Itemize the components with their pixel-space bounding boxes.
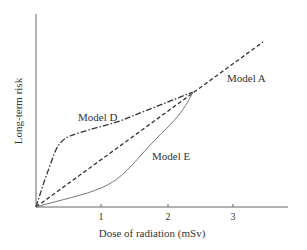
chart: 1 2 3 Dose of radiation (mSv) Long-term … (0, 0, 307, 250)
x-tick-label-2: 2 (166, 211, 171, 222)
x-tick-label-3: 3 (231, 211, 236, 222)
x-tick-label-1: 1 (99, 211, 104, 222)
y-axis-label: Long-term risk (12, 77, 24, 144)
series-model-a (36, 42, 263, 207)
label-model-d: Model D (78, 111, 117, 123)
label-model-e: Model E (152, 150, 190, 162)
label-model-a: Model A (227, 72, 266, 84)
x-axis-label: Dose of radiation (mSv) (99, 227, 206, 240)
